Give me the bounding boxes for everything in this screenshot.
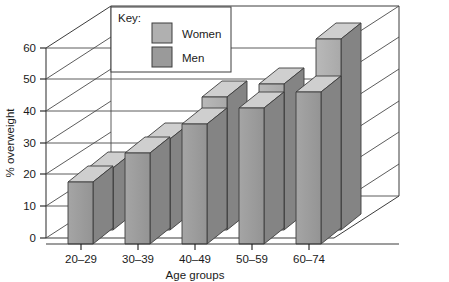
x-axis-title: Age groups bbox=[166, 269, 225, 281]
y-axis-title: % overweight bbox=[4, 108, 16, 178]
bar-men-40-49[interactable] bbox=[182, 108, 227, 244]
left-wall-gridline-50 bbox=[46, 37, 111, 79]
y-tick-label-50: 50 bbox=[23, 73, 36, 85]
y-tick-marks bbox=[40, 48, 46, 238]
bar-side-face bbox=[207, 108, 227, 244]
y-tick-label-20: 20 bbox=[23, 168, 36, 180]
x-tick-labels: 20–29 30–39 40–49 50–59 60–74 bbox=[65, 253, 326, 265]
bar-group-30-39 bbox=[125, 123, 190, 244]
legend-swatch-women bbox=[152, 23, 172, 43]
depth-edge-top-left bbox=[46, 6, 111, 48]
legend-swatch-men bbox=[152, 47, 172, 67]
bar-front-face bbox=[68, 182, 93, 244]
bar-group-60-74 bbox=[296, 23, 361, 244]
y-tick-label-40: 40 bbox=[23, 105, 36, 117]
bar-front-face bbox=[239, 108, 264, 244]
bar-side-face bbox=[341, 23, 361, 230]
left-wall-gridline-30 bbox=[46, 101, 111, 143]
x-tick-label-60-74: 60–74 bbox=[293, 253, 326, 265]
bar-group-50-59 bbox=[239, 68, 304, 244]
bar-men-30-39[interactable] bbox=[125, 137, 170, 244]
x-tick-label-50-59: 50–59 bbox=[236, 253, 268, 265]
y-tick-labels: 0 10 20 30 40 50 60 bbox=[23, 42, 36, 244]
bar-men-20-29[interactable] bbox=[68, 166, 113, 244]
left-wall-gridline-40 bbox=[46, 69, 111, 111]
legend-title: Key: bbox=[118, 12, 141, 24]
bar-group-20-29 bbox=[68, 152, 133, 244]
bar-chart-3d: 0 10 20 30 40 50 60 % overweight bbox=[0, 0, 449, 282]
legend-label-men: Men bbox=[182, 52, 204, 64]
x-tick-label-20-29: 20–29 bbox=[65, 253, 97, 265]
y-tick-label-0: 0 bbox=[30, 232, 36, 244]
bar-front-face bbox=[182, 124, 207, 244]
bar-group-40-49 bbox=[182, 81, 247, 244]
y-tick-label-60: 60 bbox=[23, 42, 36, 54]
bar-men-50-59[interactable] bbox=[239, 92, 284, 244]
x-axis-front bbox=[46, 244, 399, 250]
y-tick-label-30: 30 bbox=[23, 137, 36, 149]
legend-key[interactable]: Key: Women Men bbox=[111, 7, 231, 72]
bar-men-60-74[interactable] bbox=[296, 76, 341, 244]
bar-side-face bbox=[150, 137, 170, 244]
x-tick-label-40-49: 40–49 bbox=[179, 253, 211, 265]
bar-side-face bbox=[321, 76, 341, 244]
chart-container: 0 10 20 30 40 50 60 % overweight bbox=[0, 0, 449, 282]
x-tick-label-30-39: 30–39 bbox=[122, 253, 154, 265]
bar-front-face bbox=[296, 92, 321, 244]
bar-side-face bbox=[264, 92, 284, 244]
legend-label-women: Women bbox=[182, 28, 221, 40]
bar-front-face bbox=[125, 153, 150, 244]
y-tick-label-10: 10 bbox=[23, 200, 36, 212]
